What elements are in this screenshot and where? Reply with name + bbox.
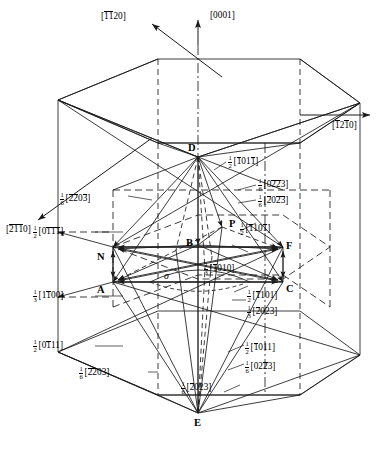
vertex-label-E: E [194,418,201,429]
vector-label-half-0111: 12[0111] [33,339,63,353]
vector-label-third-1010: 13[1010] [204,262,234,276]
vector-label-half-1101bar: 12[1101] [240,222,270,236]
axis-label-1210: [1210] [332,120,357,130]
d-rays-dashed [176,157,212,270]
vertex-label-D: D [188,143,196,154]
outer-prism-top [58,59,360,143]
crystal-diagram-figure: { "figure": { "title": "HCP lattice Burg… [0,0,379,450]
sigma-label: σ [164,271,169,281]
vertex-label-A: A [97,285,105,296]
vector-label-sixth-2203: 16[2203] [79,366,109,380]
vertex-label-B: B [186,238,193,249]
vertex-label-C: C [286,284,294,295]
vector-label-sixth-0223bar: 16[0223] [258,178,288,192]
axis-label-0001: [0001] [210,11,235,20]
vector-label-sixth-0223: 16[0223] [245,360,275,374]
axis-label-1120: [1120] [101,11,126,21]
vertex-label-F: F [286,241,292,252]
vector-label-half-1011: 12[1011] [245,341,275,355]
vector-label-third-2023: 13[2023] [247,305,277,319]
axis-label-2110: [2110] [6,224,31,234]
vector-label-third-1100: 13[1100] [33,289,63,303]
outer-prism-edges [58,59,360,395]
vector-label-half-1101: 12[1101] [247,289,277,303]
vector-label-half-0111bar: 12[0111] [33,225,63,239]
vector-label-sixth-2023bar: 16[2023] [258,194,288,208]
inner-hexagon-lower [113,275,330,307]
vector-label-sixth-2203bar: 16[2203] [60,192,90,206]
skew-connectors [58,100,360,355]
vector-label-sixth-2023: 16[2023] [181,381,211,395]
label-leaders [95,162,256,392]
vector-label-half-1011bar: 12[1011] [228,155,258,169]
vertex-label-P: P [229,219,235,230]
vertex-label-N: N [97,252,105,263]
